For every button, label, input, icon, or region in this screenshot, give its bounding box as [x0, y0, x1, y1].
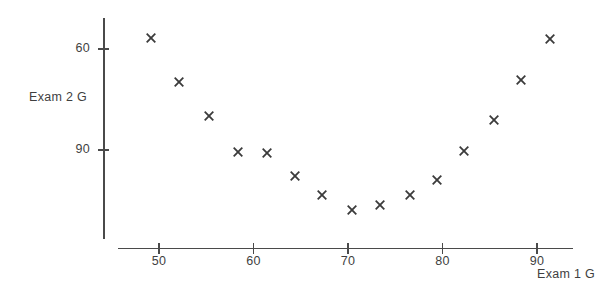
data-point-marker	[204, 110, 215, 121]
y-axis-title: Exam 2 G	[29, 90, 87, 104]
y-tick-mark	[98, 149, 109, 151]
data-point-marker	[233, 146, 244, 157]
x-tick-label: 80	[435, 254, 450, 268]
data-point-marker	[146, 32, 157, 43]
x-tick-label: 90	[530, 254, 545, 268]
data-point-marker	[459, 145, 470, 156]
data-point-marker	[375, 199, 386, 210]
x-axis-line	[118, 248, 573, 250]
x-tick-mark	[536, 243, 538, 254]
data-point-marker	[405, 189, 416, 200]
x-tick-label: 50	[152, 254, 167, 268]
y-tick-label: 60	[40, 41, 90, 55]
data-point-marker	[515, 74, 526, 85]
data-point-marker	[173, 76, 184, 87]
data-point-marker	[545, 33, 556, 44]
y-tick-label: 90	[40, 142, 90, 156]
x-tick-mark	[442, 243, 444, 254]
x-tick-mark	[253, 243, 255, 254]
x-tick-mark	[347, 243, 349, 254]
y-axis-line	[103, 18, 105, 239]
data-point-marker	[489, 114, 500, 125]
y-tick-mark	[98, 48, 109, 50]
data-point-marker	[317, 189, 328, 200]
x-tick-label: 70	[341, 254, 356, 268]
x-axis-title: Exam 1 G	[537, 267, 595, 281]
data-point-marker	[290, 170, 301, 181]
data-point-marker	[431, 174, 442, 185]
data-point-marker	[261, 147, 272, 158]
x-tick-mark	[158, 243, 160, 254]
data-point-marker	[346, 204, 357, 215]
x-tick-label: 60	[246, 254, 261, 268]
scatter-chart: 9060 5060708090 Exam 2 G Exam 1 G	[0, 0, 615, 291]
